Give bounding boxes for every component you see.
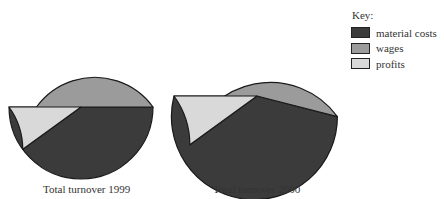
legend-item-profits: profits [351,56,437,72]
wages-swatch [351,43,370,54]
profits-swatch [351,58,370,69]
pie-2000-label: Total turnover 2000 [213,183,300,195]
legend-item-wages: wages [351,41,437,57]
legend-label: wages [376,42,404,54]
legend: Key: material costs wages profits [351,9,437,72]
legend-item-material-costs: material costs [351,25,437,41]
material-costs-swatch [351,27,370,38]
legend-title: Key: [352,9,437,21]
legend-label: profits [376,58,405,70]
legend-label: material costs [376,27,437,39]
pie-1999-label: Total turnover 1999 [43,183,130,195]
